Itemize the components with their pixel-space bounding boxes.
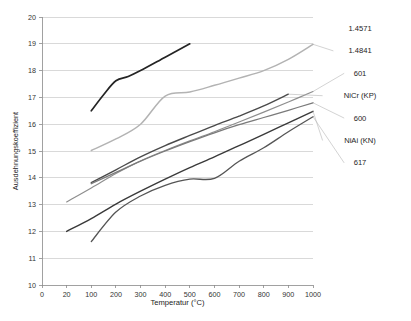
y-tick-label: 17 bbox=[28, 93, 36, 102]
legend-leader-line bbox=[313, 103, 344, 118]
series-line bbox=[91, 94, 288, 182]
series-line bbox=[91, 117, 313, 242]
series-line bbox=[67, 111, 313, 231]
x-tick-label: 300 bbox=[135, 290, 147, 299]
y-tick-label: 16 bbox=[28, 120, 36, 129]
x-tick-label: 800 bbox=[258, 290, 270, 299]
x-tick-label: 0 bbox=[40, 290, 44, 299]
legend-label: NiCr (KP) bbox=[344, 91, 377, 100]
y-tick-label: 18 bbox=[28, 66, 36, 75]
legend-label: 601 bbox=[354, 69, 367, 78]
x-axis-title: Temperatur (°C) bbox=[150, 298, 205, 307]
grid-layer bbox=[39, 17, 313, 288]
legend-label: 600 bbox=[354, 114, 367, 123]
x-tick-label: 700 bbox=[233, 290, 245, 299]
y-tick-label: 19 bbox=[28, 39, 36, 48]
x-tick-label: 200 bbox=[110, 290, 122, 299]
y-tick-label: 13 bbox=[28, 200, 36, 209]
series-line bbox=[91, 103, 313, 184]
x-tick-label: 1000 bbox=[305, 290, 321, 299]
legend-label: 1.4571 bbox=[348, 24, 371, 33]
legend-leader-line bbox=[313, 117, 344, 163]
legend-leader-lines bbox=[288, 44, 344, 163]
x-tick-label: 900 bbox=[282, 290, 294, 299]
y-tick-label: 15 bbox=[28, 147, 36, 156]
y-tick-label: 12 bbox=[28, 227, 36, 236]
y-axis-title: Ausdehnungskoeffizient bbox=[11, 112, 20, 190]
legend-label: 1.4841 bbox=[348, 46, 371, 55]
series-layer bbox=[67, 44, 313, 242]
y-tick-label: 20 bbox=[28, 13, 36, 22]
legend-leader-line bbox=[313, 73, 344, 91]
legend-leader-line bbox=[313, 44, 333, 51]
x-tick-label: 100 bbox=[85, 290, 97, 299]
y-tick-label: 10 bbox=[28, 281, 36, 290]
x-tick-label: 600 bbox=[208, 290, 220, 299]
y-tick-labels: 1011121314151617181920 bbox=[28, 13, 36, 290]
y-tick-label: 14 bbox=[28, 173, 36, 182]
expansion-coefficient-chart: 1011121314151617181920 02010020030040050… bbox=[0, 0, 411, 321]
legend-label: 617 bbox=[354, 158, 367, 167]
series-line bbox=[67, 92, 313, 202]
x-tick-label: 20 bbox=[63, 290, 71, 299]
legend: 1.45711.4841601NiCr (KP)600NiAi (KN)617 bbox=[344, 24, 377, 167]
chart-canvas: 1011121314151617181920 02010020030040050… bbox=[0, 0, 411, 321]
y-tick-label: 11 bbox=[29, 254, 36, 263]
legend-label: NiAi (KN) bbox=[344, 136, 376, 145]
series-line bbox=[91, 44, 190, 111]
legend-leader-line bbox=[313, 111, 323, 140]
